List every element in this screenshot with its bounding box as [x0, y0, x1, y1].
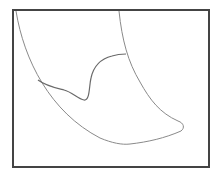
outer-left-curve — [16, 11, 130, 144]
bottom-edge-curve — [130, 131, 181, 144]
inner-right-curve — [119, 11, 178, 121]
claw-tip — [178, 121, 183, 131]
wavy-boundary-line — [38, 54, 126, 100]
claw-drawing — [0, 0, 218, 174]
diagram-canvas — [0, 0, 218, 174]
